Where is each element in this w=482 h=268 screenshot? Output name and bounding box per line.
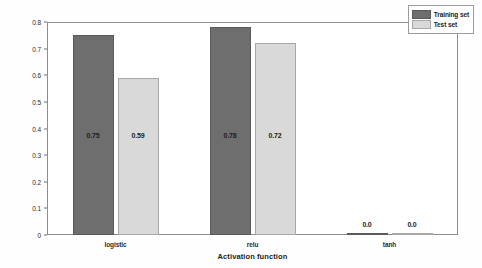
y-axis-tick-label: 0.8 [25,19,41,26]
x-axis-tick-label-tanh: tanh [383,241,396,248]
legend-item-test-set: Test set [412,20,469,29]
bar-value-label: 0.0 [362,221,371,228]
chart-legend: Training set Test set [408,5,474,34]
bar-value-label: 0.75 [87,132,100,139]
y-axis-tick-mark [44,128,47,129]
x-axis-label: Activation function [47,252,458,261]
y-axis-tick-label: 0.5 [25,98,41,105]
bar-tanh-test [392,233,433,235]
y-axis-tick-label: 0 [25,232,41,239]
y-axis-tick-label: 0.4 [25,125,41,132]
y-axis-tick-mark [44,235,47,236]
bar-value-label: 0.78 [224,132,237,139]
legend-swatch-test-set [412,20,431,29]
chart-figure: 00.10.20.30.40.50.60.70.8 0.750.590.780.… [0,0,482,268]
bar-relu-test [255,43,296,235]
y-axis-tick-label: 0.2 [25,178,41,185]
y-axis-tick-mark [44,101,47,102]
bar-logistic-test [118,78,159,235]
y-axis-tick-mark [44,75,47,76]
legend-label-training-set: Training set [434,11,469,18]
y-axis-tick-label: 0.6 [25,72,41,79]
bar-value-label: 0.59 [132,132,145,139]
legend-item-training-set: Training set [412,10,469,19]
x-axis-tick-label-logistic: logistic [105,241,127,248]
y-axis-tick-mark [44,208,47,209]
y-axis-tick-mark [44,48,47,49]
bar-tanh-train [347,233,388,235]
x-axis-tick-label-relu: relu [247,241,259,248]
y-axis-tick-label: 0.1 [25,205,41,212]
y-axis-tick-mark [44,181,47,182]
y-axis-tick-mark [44,155,47,156]
legend-swatch-training-set [412,10,431,19]
y-axis-tick-label: 0.7 [25,45,41,52]
y-axis-tick-label: 0.3 [25,152,41,159]
legend-label-test-set: Test set [434,21,457,28]
bar-value-label: 0.72 [269,132,282,139]
y-axis-tick-mark [44,22,47,23]
bar-value-label: 0.0 [407,221,416,228]
